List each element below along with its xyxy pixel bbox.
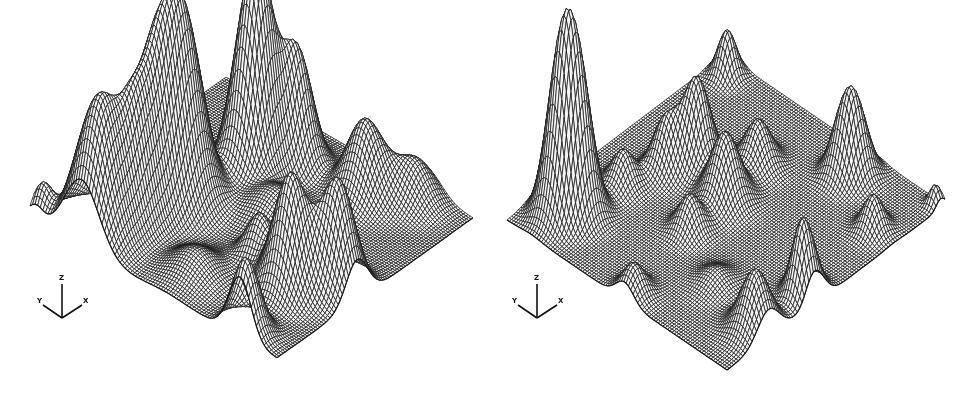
wireframe-surface-right — [487, 0, 974, 394]
surface-plot-left: Y Z X — [0, 0, 487, 394]
axis-label-x: X — [83, 298, 88, 305]
surface-plot-right: Y Z X — [487, 0, 974, 394]
wireframe-surface-left — [0, 0, 487, 394]
axis-label-z: Z — [59, 275, 64, 282]
axis-label-y: Y — [512, 298, 517, 305]
axis-label-z: Z — [534, 275, 539, 282]
axis-triad-left: Y Z X — [27, 268, 97, 328]
axis-label-x: X — [558, 298, 563, 305]
axis-label-y: Y — [37, 298, 42, 305]
axis-triad-right: Y Z X — [502, 268, 572, 328]
